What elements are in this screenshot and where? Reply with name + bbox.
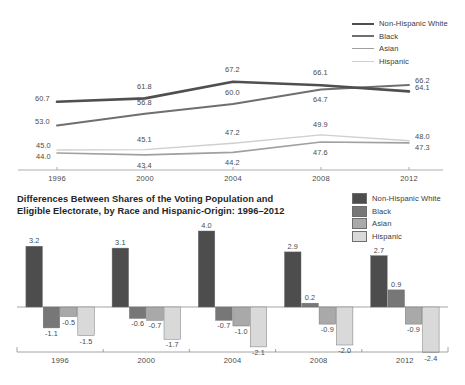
line-chart-panel: Non-Hispanic WhiteBlackAsianHispanic 60.… (0, 0, 465, 190)
bar-value-label: 2.7 (365, 246, 393, 255)
bar-value-label: 3.2 (20, 236, 48, 245)
line-point-label: 64.7 (313, 95, 328, 104)
line-point-label: 48.0 (415, 132, 430, 141)
bar-value-label: 4.0 (193, 221, 221, 230)
line-x-tick-label: 2000 (123, 174, 167, 183)
legend-line-swatch (352, 61, 374, 62)
line-point-label: 47.2 (225, 128, 240, 137)
line-x-tick-label: 2004 (211, 174, 255, 183)
legend-color-swatch (352, 231, 367, 242)
bar-x-tick-label: 2000 (121, 356, 171, 365)
bar-value-label: -2.0 (331, 346, 359, 355)
bar-x-tick-label: 2012 (380, 356, 430, 365)
line-chart-legend: Non-Hispanic WhiteBlackAsianHispanic (352, 18, 448, 68)
figure-container: Non-Hispanic WhiteBlackAsianHispanic 60.… (0, 0, 465, 385)
legend-item[interactable]: Non-Hispanic White (352, 18, 448, 29)
legend-color-swatch (352, 206, 367, 217)
line-point-label: 61.8 (137, 82, 152, 91)
line-x-tick-label: 2008 (299, 174, 343, 183)
legend-item[interactable]: Asian (352, 43, 448, 54)
legend-label: Non-Hispanic White (379, 19, 448, 28)
line-point-label: 53.0 (35, 117, 50, 126)
legend-label: Hispanic (379, 57, 409, 66)
line-point-label: 66.1 (313, 68, 328, 77)
bar-value-label: -1.0 (227, 327, 255, 336)
bar-value-label: -0.7 (141, 321, 169, 330)
line-point-label: 47.6 (313, 148, 328, 157)
legend-item[interactable]: Hispanic (352, 56, 448, 67)
legend-label: Non-Hispanic White (372, 194, 441, 203)
legend-color-swatch (352, 218, 367, 229)
legend-item[interactable]: Non-Hispanic White (352, 193, 441, 204)
bar-chart-legend: Non-Hispanic WhiteBlackAsianHispanic (352, 193, 441, 243)
bar-value-label: -0.9 (400, 325, 428, 334)
line-x-tick-label: 2012 (387, 174, 431, 183)
line-point-label: 67.2 (225, 65, 240, 74)
legend-item[interactable]: Black (352, 206, 441, 217)
line-point-label: 44.2 (225, 158, 240, 167)
line-point-label: 49.9 (313, 120, 328, 129)
line-point-label: 66.2 (415, 76, 430, 85)
bar-value-label: -0.9 (313, 325, 341, 334)
bar-value-label: -0.5 (55, 318, 83, 327)
bar-x-tick-label: 1996 (35, 356, 85, 365)
bar-x-tick-label: 2004 (208, 356, 258, 365)
bar-x-tick-label: 2008 (294, 356, 344, 365)
bar-value-label: 0.2 (296, 293, 324, 302)
legend-label: Hispanic (372, 232, 402, 241)
bar-chart-panel: Differences Between Shares of the Voting… (0, 188, 465, 385)
legend-color-swatch (352, 193, 367, 204)
bar-value-label: 2.9 (279, 242, 307, 251)
legend-item[interactable]: Asian (352, 218, 441, 229)
bar-value-label: -1.1 (37, 329, 65, 338)
legend-item[interactable]: Hispanic (352, 231, 441, 242)
legend-label: Black (379, 32, 398, 41)
bar-value-label: -1.5 (72, 337, 100, 346)
legend-label: Black (372, 207, 391, 216)
line-point-label: 60.0 (225, 88, 240, 97)
line-point-label: 47.3 (415, 143, 430, 152)
bar-value-label: -1.7 (158, 340, 186, 349)
legend-label: Asian (379, 44, 399, 53)
line-point-label: 45.1 (137, 135, 152, 144)
legend-line-swatch (352, 48, 374, 49)
legend-item[interactable]: Black (352, 31, 448, 42)
bar-value-label: 3.1 (106, 238, 134, 247)
legend-line-swatch (352, 23, 374, 25)
line-point-label: 60.7 (35, 94, 50, 103)
line-point-label: 43.4 (137, 161, 152, 170)
bar-value-label: 0.9 (382, 280, 410, 289)
line-x-tick-label: 1996 (35, 174, 79, 183)
line-point-label: 44.0 (36, 152, 51, 161)
line-point-label: 45.0 (36, 141, 51, 150)
legend-label: Asian (372, 219, 392, 228)
line-point-label: 56.8 (137, 98, 152, 107)
legend-line-swatch (352, 35, 374, 37)
